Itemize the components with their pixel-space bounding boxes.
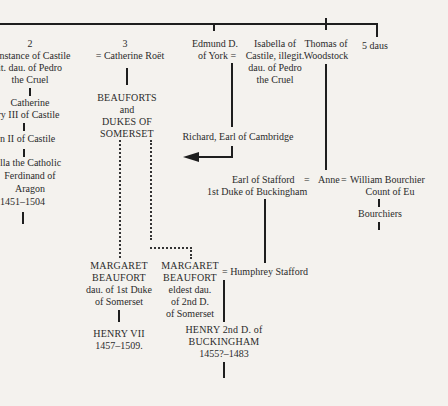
thomas-line-2: Woodstock [300,50,352,62]
descent-line [223,280,225,322]
arrow-shaft [198,156,233,158]
beauforts-line-4: SOMERSET [90,128,164,140]
thomas-line-1: Thomas of [300,38,352,50]
descent-line [23,149,25,157]
margaret-1-line-2: BEAUFORT [82,272,156,284]
constance-line-2: it. dau. of Pedro [0,62,70,74]
beauforts-line-1: BEAUFORTS [90,92,164,104]
descent-line [23,123,25,131]
descent-line [264,199,266,263]
henry-vii: HENRY VII [82,328,156,340]
henry-2nd-duke-line-2: BUCKINGHAM [180,336,268,348]
margaret-2-line-1: MARGARET [158,260,222,272]
isabella-dates: 1451–1504 [0,196,45,208]
dotted-descent-margaret-2 [150,140,152,240]
genealogy-diagram: 2 nstance of Castile it. dau. of Pedro t… [0,0,448,406]
dotted-link [150,247,192,249]
descent-line [231,63,233,127]
descent-line [223,362,225,378]
richard-earl-of-cambridge: Richard, Earl of Cambridge [178,131,298,143]
first-duke-of-buckingham: 1st Duke of Buckingham [207,186,307,198]
catherine-line-2: nry III of Castile [0,109,66,121]
constance-line-3: the Cruel [0,74,70,86]
drop-daughters [376,23,378,37]
henry-2nd-duke-line-1: HENRY 2nd D. of [180,324,268,336]
count-of-eu: Count of Eu [352,186,428,198]
beauforts-line-3: DUKES OF [90,116,164,128]
descent-line [126,68,128,85]
five-daughters: 5 daus [362,40,388,52]
isabella-line-2: Ferdinand of [0,170,65,182]
top-sibling-bar [0,23,378,25]
marriage-sign: = [341,174,347,186]
column-3-number: 3 [110,38,140,50]
bourchiers: Bourchiers [352,208,408,220]
edmund-line-1: Edmund D. [190,38,240,50]
margaret-2-desc-1: eldest dau. [158,284,222,296]
margaret-1-desc-1: dau. of 1st Duke [80,284,158,296]
margaret-1-line-1: MARGARET [82,260,156,272]
beauforts-line-2: and [90,104,164,116]
edmund-line-2: of York = [192,50,242,62]
descent-line [22,212,24,224]
margaret-2-desc-2: of 2nd D. [158,296,222,308]
margaret-2-desc-3: of Somerset [158,308,222,320]
arrow-left-icon [183,152,199,162]
henry-2nd-duke-dates: 1455?–1483 [180,348,268,360]
isabella-castile-line-4: the Cruel [240,74,310,86]
earl-of-stafford: Earl of Stafford [232,174,295,186]
column-2-number: 2 [15,38,45,50]
isabella-line-1: lla the Catholic [0,157,61,169]
descent-line [29,88,31,96]
constance-line-1: nstance of Castile [0,50,80,62]
catherine-roet: = Catherine Roët [80,50,180,62]
marriage-sign: = [304,174,310,186]
descent-line [378,222,380,230]
humphrey-stafford: = Humphrey Stafford [222,266,308,278]
descent-line [118,310,120,322]
descent-line [378,199,380,207]
descent-line [325,64,327,170]
dotted-descent-margaret-2b [190,247,192,259]
isabella-castile-line-3: dau. of Pedro [240,62,310,74]
anne: Anne [318,174,340,186]
margaret-1-desc-2: of Somerset [80,296,158,308]
dotted-descent-margaret-1 [119,140,121,258]
john-ii-of-castile: n II of Castile [0,133,55,145]
margaret-2-line-2: BEAUFORT [158,272,222,284]
catherine-line-1: Catherine [0,97,70,109]
henry-vii-dates: 1457–1509. [82,340,156,352]
drop-edmund [213,23,215,31]
william-bourchier: William Bourchier [350,174,425,186]
drop-thomas [325,18,327,30]
isabella-line-3: Aragon [0,183,65,195]
